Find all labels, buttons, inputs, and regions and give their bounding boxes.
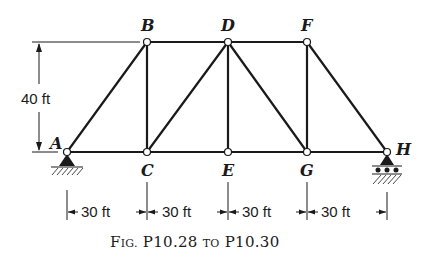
span-dimensions: 30 ft 30 ft 30 ft 30 ft bbox=[67, 182, 387, 220]
label-C: C bbox=[141, 161, 154, 180]
label-G: G bbox=[300, 161, 314, 180]
member-FH bbox=[307, 42, 387, 152]
pin-support-icon bbox=[51, 154, 83, 175]
span-label-4: 30 ft bbox=[321, 203, 351, 220]
member-DG bbox=[228, 42, 307, 152]
truss-members bbox=[67, 42, 387, 152]
height-label: 40 ft bbox=[21, 90, 51, 107]
label-A: A bbox=[48, 134, 62, 153]
label-E: E bbox=[221, 161, 235, 180]
label-D: D bbox=[220, 16, 235, 35]
joint-C bbox=[144, 149, 151, 156]
joint-G bbox=[304, 149, 311, 156]
joint-B bbox=[144, 39, 151, 46]
span-label-1: 30 ft bbox=[81, 203, 111, 220]
joint-E bbox=[225, 149, 232, 156]
span-label-2: 30 ft bbox=[162, 203, 192, 220]
figure-caption: FIG.P10.28TOP10.30 bbox=[110, 233, 280, 251]
label-B: B bbox=[140, 16, 155, 35]
joint-A bbox=[64, 149, 71, 156]
joint-F bbox=[304, 39, 311, 46]
joint-H bbox=[384, 149, 391, 156]
span-label-3: 30 ft bbox=[242, 203, 272, 220]
joint-D bbox=[225, 39, 232, 46]
label-F: F bbox=[300, 16, 314, 35]
member-CD bbox=[147, 42, 228, 152]
member-AB bbox=[67, 42, 147, 152]
label-H: H bbox=[395, 140, 412, 159]
truss-diagram: 40 ft bbox=[0, 0, 429, 262]
height-dimension: 40 ft bbox=[21, 42, 140, 152]
